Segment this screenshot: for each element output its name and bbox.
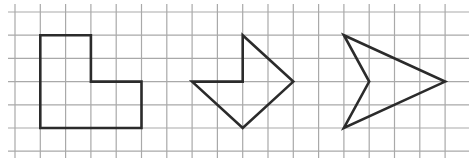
shapes-layer [0,0,469,158]
arrow-shape [192,35,293,128]
l-shape [40,35,141,128]
dart-shape [344,35,445,128]
grid-diagram [0,0,469,158]
